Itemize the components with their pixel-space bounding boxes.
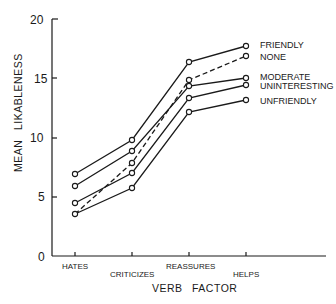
y-tick-20: 20	[30, 13, 44, 27]
x-axis-title-verb: VERB	[152, 282, 183, 294]
series-label-unfriendly: UNFRIENDLY	[260, 96, 317, 106]
series-label-uninteresting: UNINTERESTING	[260, 81, 334, 91]
y-axis-title-likableness: LIKABLENESS	[12, 53, 24, 130]
x-category-helps: HELPS	[233, 270, 259, 279]
x-axis-title-factor: FACTOR	[192, 282, 237, 294]
series-uninteresting-line	[75, 85, 246, 203]
series-unfriendly-line	[75, 100, 246, 214]
x-category-criticizes: CRITICIZES	[110, 270, 154, 279]
series-friendly-markers	[72, 43, 248, 176]
series-unfriendly-markers	[72, 97, 248, 216]
line-chart: 20 15 10 5 0 HATES CRITICIZES REASSURES …	[0, 0, 336, 304]
y-tick-10: 10	[30, 131, 44, 145]
series-label-friendly: FRIENDLY	[260, 40, 304, 50]
x-axis	[52, 252, 326, 256]
series-label-none: NONE	[260, 52, 286, 62]
y-axis-title-mean: MEAN	[12, 140, 24, 172]
x-category-reassures: REASSURES	[166, 262, 215, 271]
y-axis	[52, 19, 58, 256]
series-friendly-line	[75, 46, 246, 174]
y-tick-15: 15	[34, 72, 48, 86]
y-tick-5: 5	[38, 190, 45, 204]
x-category-hates: HATES	[62, 262, 88, 271]
series-moderate-line	[75, 78, 246, 186]
y-tick-0: 0	[38, 250, 45, 264]
